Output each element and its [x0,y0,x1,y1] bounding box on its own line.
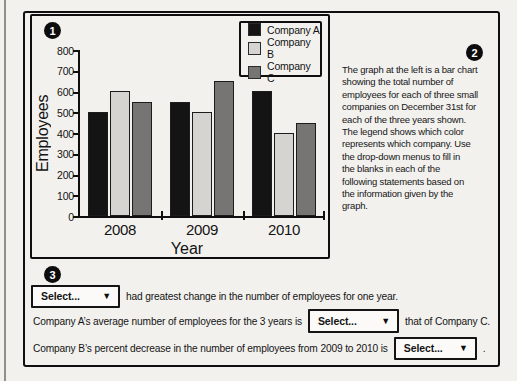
y-tick-label: 200 [38,169,74,181]
statement-1: Select... ▼ had greatest change in the n… [31,283,400,309]
y-tick-label: 800 [38,45,74,57]
statement-3-dropdown[interactable]: Select... ▼ [394,337,477,360]
legend-item-company-c: Company C [248,60,320,84]
statement-3: Company B’s percent decrease in the numb… [31,335,488,361]
legend-swatch [248,23,261,36]
statement-1-text: had greatest change in the number of emp… [124,291,400,302]
statement-2: Company A’s average number of employees … [31,308,492,334]
legend: Company ACompany BCompany C [239,21,322,77]
statement-2-select-label: Select... [318,315,357,327]
bar-company-a-2010 [252,91,272,216]
legend-label: Company C [267,60,320,84]
bar-company-c-2008 [132,102,152,216]
bar-company-c-2010 [296,123,316,216]
instructions-text: The graph at the left is a bar chart sho… [342,64,500,213]
statement-2-dropdown[interactable]: Select... ▼ [308,309,399,333]
bar-company-b-2008 [110,91,130,216]
worksheet: 1 Employees 0100200300400500600700800200… [0,0,517,381]
statement-1-select-label: Select... [41,290,80,302]
step-3-badge: 3 [44,266,61,283]
bar-chart: 1 Employees 0100200300400500600700800200… [30,14,330,259]
bar-company-c-2009 [214,81,234,216]
bar-company-a-2009 [170,102,190,216]
y-tick-label: 500 [38,107,74,119]
bar-company-b-2009 [192,112,212,216]
y-tick-label: 700 [38,65,74,77]
dropdown-arrow-icon: ▼ [381,317,390,326]
statement-3-select-label: Select... [404,342,443,354]
statement-3-post-text: . [481,343,488,354]
x-axis-title: Year [147,240,227,258]
x-category-label: 2010 [244,221,324,238]
y-tick-label: 400 [38,128,74,140]
step-2-badge: 2 [466,44,483,61]
x-axis-line [78,216,325,218]
x-axis-tick [243,211,245,220]
x-category-label: 2008 [80,221,160,238]
y-tick-label: 300 [38,148,74,160]
legend-item-company-a: Company A [248,23,320,36]
statement-2-pre-text: Company A’s average number of employees … [31,316,304,327]
legend-label: Company A [267,24,319,36]
legend-swatch [248,66,261,79]
bar-company-b-2010 [274,133,294,216]
x-category-label: 2009 [162,221,242,238]
x-axis-tick [323,211,325,220]
legend-item-company-b: Company B [248,36,320,60]
dropdown-arrow-icon: ▼ [459,344,468,353]
page-margin-line [4,0,6,381]
y-tick-label: 0 [38,211,74,223]
dropdown-arrow-icon: ▼ [102,292,111,301]
y-tick-label: 100 [38,190,74,202]
legend-swatch [248,42,261,55]
statement-1-dropdown[interactable]: Select... ▼ [31,285,120,308]
y-tick-label: 600 [38,86,74,98]
statement-2-post-text: that of Company C. [403,316,492,327]
legend-label: Company B [267,36,320,60]
x-axis-tick [161,211,163,220]
step-1-badge: 1 [44,22,61,39]
bar-company-a-2008 [88,112,108,216]
statement-3-pre-text: Company B’s percent decrease in the numb… [31,343,390,354]
